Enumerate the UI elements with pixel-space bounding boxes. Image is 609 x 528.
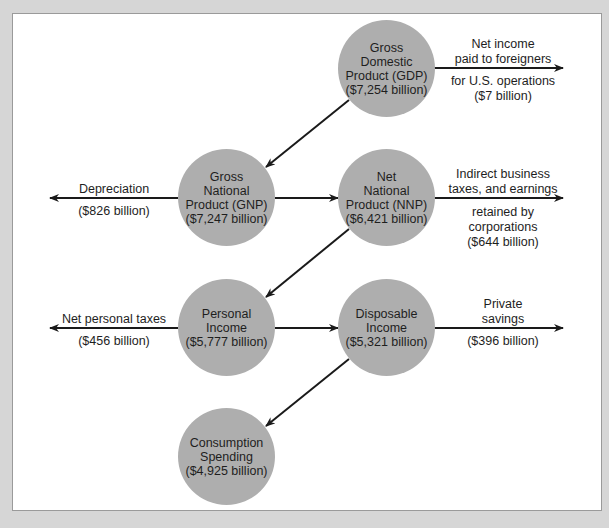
node-personal-income: Personal Income ($5,777 billion) (178, 279, 275, 376)
flow-private-savings-above: Private savings (440, 297, 566, 327)
node-gnp: Gross National Product (GNP) ($7,247 bil… (178, 149, 275, 246)
node-gdp-line: Product (GDP) (346, 69, 428, 83)
node-disposable-income-line: Disposable (356, 307, 418, 321)
node-consumption-line: Consumption (190, 436, 264, 450)
arrow-di-to-consumption (266, 359, 349, 426)
flow-depreciation-above: Depreciation (58, 182, 170, 197)
node-nnp-line: Product (NNP) (346, 198, 427, 212)
node-gdp: Gross Domestic Product (GDP) ($7,254 bil… (338, 20, 435, 117)
label-line: ($396 billion) (440, 334, 566, 349)
node-consumption: Consumption Spending ($4,925 billion) (178, 408, 275, 505)
arrow-gdp-to-gnp (266, 100, 349, 167)
label-line: for U.S. operations (440, 74, 566, 89)
flow-depreciation-below: ($826 billion) (58, 204, 170, 219)
flow-net-personal-taxes-below: ($456 billion) (50, 334, 178, 349)
label-line: ($826 billion) (58, 204, 170, 219)
label-line: taxes, and earnings (440, 182, 566, 197)
label-line: Indirect business (440, 167, 566, 182)
node-gdp-value: ($7,254 billion) (346, 83, 428, 97)
node-personal-income-line: Personal (202, 307, 251, 321)
label-line: corporations (440, 220, 566, 235)
node-gnp-value: ($7,247 billion) (186, 212, 268, 226)
node-personal-income-line: Income (206, 321, 247, 335)
label-line: retained by (440, 205, 566, 220)
flow-net-income-above: Net income paid to foreigners (440, 37, 566, 67)
node-nnp-value: ($6,421 billion) (346, 212, 428, 226)
node-disposable-income-value: ($5,321 billion) (346, 335, 428, 349)
flow-indirect-taxes-below: retained by corporations ($644 billion) (440, 205, 566, 250)
node-gnp-line: Product (GNP) (186, 198, 268, 212)
node-nnp: Net National Product (NNP) ($6,421 billi… (338, 149, 435, 246)
node-consumption-line: Spending (200, 450, 253, 464)
label-line: ($644 billion) (440, 235, 566, 250)
label-line: ($7 billion) (440, 89, 566, 104)
label-line: paid to foreigners (440, 52, 566, 67)
label-line: Private (440, 297, 566, 312)
node-disposable-income: Disposable Income ($5,321 billion) (338, 279, 435, 376)
node-nnp-line: Net (377, 170, 396, 184)
label-line: Depreciation (58, 182, 170, 197)
label-line: Net personal taxes (50, 312, 178, 327)
label-line: Net income (440, 37, 566, 52)
label-line: ($456 billion) (50, 334, 178, 349)
label-line: savings (440, 312, 566, 327)
flow-net-personal-taxes-above: Net personal taxes (50, 312, 178, 327)
flow-net-income-below: for U.S. operations ($7 billion) (440, 74, 566, 104)
flow-indirect-taxes-above: Indirect business taxes, and earnings (440, 167, 566, 197)
node-gnp-line: Gross (210, 170, 243, 184)
node-disposable-income-line: Income (366, 321, 407, 335)
arrow-nnp-to-personal-income (266, 229, 349, 297)
node-gdp-line: Domestic (360, 55, 412, 69)
node-gnp-line: National (204, 184, 250, 198)
node-consumption-value: ($4,925 billion) (186, 464, 268, 478)
flow-private-savings-below: ($396 billion) (440, 334, 566, 349)
node-personal-income-value: ($5,777 billion) (186, 335, 268, 349)
node-gdp-line: Gross (370, 41, 403, 55)
node-nnp-line: National (364, 184, 410, 198)
